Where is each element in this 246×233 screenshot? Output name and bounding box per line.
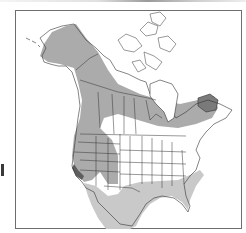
range-map <box>0 0 246 233</box>
aleutian-islands <box>26 38 40 47</box>
arctic-islands <box>118 12 176 72</box>
winter-range-area <box>84 170 204 229</box>
primary-range-area <box>40 24 218 184</box>
